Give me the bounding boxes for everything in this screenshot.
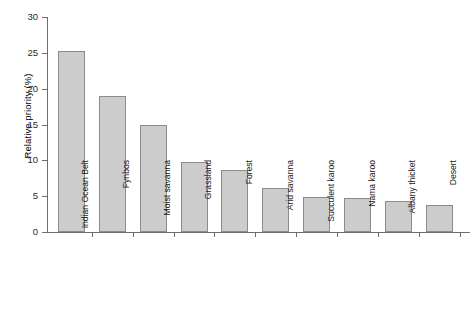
x-axis-category-label: Fynbos bbox=[119, 160, 133, 240]
x-axis-category-label: Desert bbox=[446, 160, 460, 240]
x-axis-category-label: Forest bbox=[242, 160, 256, 240]
x-axis-category-label: Nama karoo bbox=[365, 160, 379, 240]
x-axis-category-label: Arid savanna bbox=[283, 160, 297, 240]
x-axis-category-label: Indian Ocean Belt bbox=[78, 160, 92, 240]
x-axis-category-label: Succulent karoo bbox=[324, 160, 338, 240]
x-axis-category-label: Grassland bbox=[201, 160, 215, 240]
bars-layer bbox=[0, 0, 474, 320]
x-axis-category-label: Moist savanna bbox=[160, 160, 174, 240]
x-axis-category-label: Albany thicket bbox=[405, 160, 419, 240]
bar-chart: Relative priority (%) 051015202530 India… bbox=[0, 0, 474, 320]
